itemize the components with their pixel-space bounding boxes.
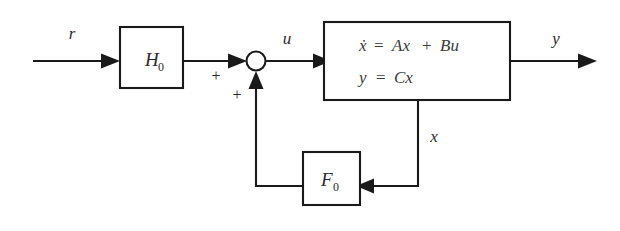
label-state-signal: x bbox=[429, 127, 438, 146]
plant-equation-output-rhs: Cx bbox=[394, 68, 413, 87]
plant-equation-output-equals: = bbox=[376, 68, 386, 87]
block-diagram: r u y x H 0 F 0 ẋ = Ax + Bu y = Cx + + bbox=[0, 0, 620, 231]
prefilter-label-subscript: 0 bbox=[158, 60, 164, 74]
plant-equation-state: ẋ = Ax + Bu bbox=[358, 36, 459, 55]
plant-block[interactable] bbox=[324, 22, 510, 100]
summing-junction[interactable] bbox=[247, 52, 266, 71]
plant-equation-output: y = Cx bbox=[357, 68, 413, 87]
plant-equation-state-equals: = bbox=[374, 36, 384, 55]
plant-equation-state-term-a: Ax bbox=[391, 36, 410, 55]
plant-equation-state-lhs: ẋ bbox=[358, 36, 367, 55]
plant-equation-state-plus: + bbox=[422, 36, 432, 55]
label-control-signal: u bbox=[283, 29, 292, 48]
sum-sign-feedback: + bbox=[232, 86, 241, 103]
plant-equation-output-lhs: y bbox=[357, 68, 367, 87]
arrowhead-into-prefilter bbox=[101, 54, 120, 69]
plant-equation-state-term-b: Bu bbox=[440, 36, 459, 55]
arrowhead-output bbox=[578, 54, 597, 69]
feedback-label-subscript: 0 bbox=[333, 180, 339, 194]
feedback-label: F bbox=[320, 169, 333, 190]
diagram-canvas: r u y x H 0 F 0 ẋ = Ax + Bu y = Cx + + bbox=[0, 0, 620, 231]
sum-sign-reference: + bbox=[211, 67, 220, 84]
label-output-signal: y bbox=[550, 29, 560, 48]
arrowhead-feedback-into-sum bbox=[249, 71, 264, 89]
arrowhead-into-sum bbox=[228, 54, 247, 69]
label-reference-signal: r bbox=[69, 24, 76, 43]
